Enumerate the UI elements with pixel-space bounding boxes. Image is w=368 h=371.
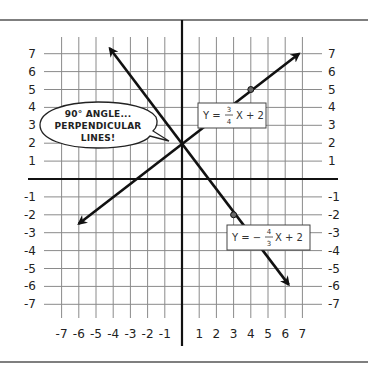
x-tick-label: 1 [195,327,203,341]
y-tick-label-left: 2 [28,136,36,150]
x-tick-label: -3 [124,327,136,341]
x-tick-label: -2 [142,327,154,341]
y-tick-label-left: 1 [28,154,36,168]
x-tick-label: 2 [213,327,221,341]
y-tick-label-left: -7 [24,297,36,311]
coordinate-plane-figure: -7-6-5-4-3-2-112345677654321-1-2-3-4-5-6… [0,0,368,371]
y-tick-label-right: -6 [328,279,340,293]
y-tick-label-left: 3 [28,118,36,132]
bubble-line-3: LINES! [81,133,116,143]
y-tick-label-right: 4 [328,100,336,114]
marked-point [248,87,254,93]
equation-1-suffix: X + 2 [236,110,264,121]
y-tick-label-right: 6 [328,65,336,79]
speech-bubble: 90° ANGLE... PERPENDICULAR LINES! [40,102,169,148]
x-tick-label: 4 [247,327,255,341]
y-tick-label-left: -5 [24,262,36,276]
y-tick-label-left: 5 [28,83,36,97]
y-tick-label-left: 7 [28,47,36,61]
y-tick-label-left: -6 [24,279,36,293]
bubble-line-1: 90° ANGLE... [65,109,132,119]
x-tick-label: 3 [230,327,238,341]
equation-label-1: Y = 3 4 X + 2 [198,103,266,128]
y-tick-label-right: 1 [328,154,336,168]
y-tick-label-right: -5 [328,262,340,276]
x-tick-label: -5 [90,327,102,341]
y-tick-label-left: 4 [28,100,36,114]
coordinate-plane: -7-6-5-4-3-2-112345677654321-1-2-3-4-5-6… [0,0,368,371]
equation-1-numerator: 3 [227,106,231,114]
y-tick-label-right: -7 [328,297,340,311]
x-tick-label: 5 [264,327,272,341]
y-tick-label-right: -3 [328,226,340,240]
x-tick-label: 7 [299,327,307,341]
equation-1-denominator: 4 [227,118,232,126]
y-tick-label-left: -3 [24,226,36,240]
y-tick-label-right: 7 [328,47,336,61]
equation-label-2: Y = − 4 3 X + 2 [227,225,310,250]
equation-1-prefix: Y = [202,110,221,121]
y-tick-label-right: 2 [328,136,336,150]
y-tick-label-left: 6 [28,65,36,79]
y-tick-label-right: 3 [328,118,336,132]
y-tick-label-left: -1 [24,190,36,204]
y-tick-label-right: -4 [328,244,340,258]
equation-2-numerator: 4 [267,228,272,236]
equation-2-denominator: 3 [267,240,271,248]
y-tick-label-right: -2 [328,208,340,222]
equation-2-prefix: Y = − [231,232,261,243]
bubble-line-2: PERPENDICULAR [55,121,142,131]
axes [28,20,338,346]
y-tick-label-right: 5 [328,83,336,97]
x-tick-label: -6 [73,327,85,341]
y-tick-label-left: -4 [24,244,36,258]
x-tick-label: -1 [159,327,171,341]
y-tick-label-left: -2 [24,208,36,222]
x-tick-label: -7 [56,327,68,341]
marked-point [231,212,237,218]
y-tick-label-right: -1 [328,190,340,204]
x-tick-label: 6 [281,327,289,341]
equation-2-suffix: X + 2 [275,232,303,243]
x-tick-label: -4 [107,327,119,341]
